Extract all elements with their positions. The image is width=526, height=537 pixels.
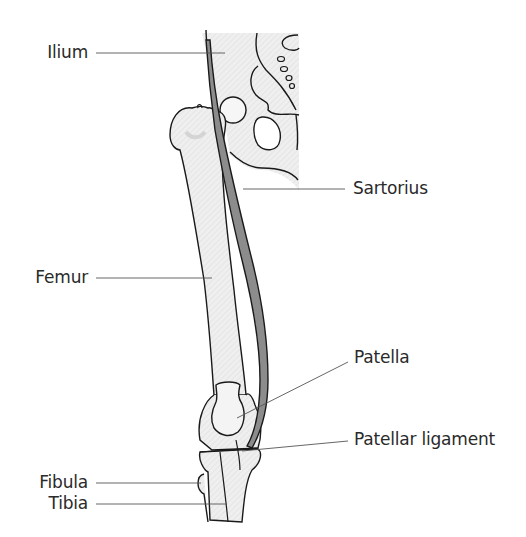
anatomy-diagram: Ilium Sartorius Femur Patella Patellar l… [0,0,526,537]
label-tibia: Tibia [16,493,88,513]
label-femur: Femur [16,267,88,287]
label-sartorius: Sartorius [353,178,428,198]
lower-leg-shape [198,440,260,522]
patella-shape [212,382,244,435]
label-ilium: Ilium [16,42,88,62]
label-fibula: Fibula [16,472,88,492]
label-patella: Patella [354,347,410,367]
patella-leader-line [237,362,348,418]
label-patellar-ligament: Patellar ligament [354,429,495,449]
